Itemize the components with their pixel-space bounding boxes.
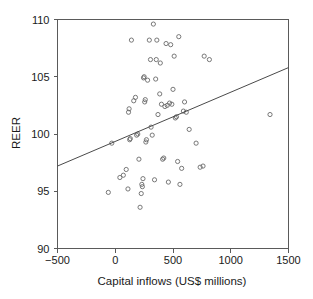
data-point [268,112,272,116]
y-tick-label: 110 [32,14,50,26]
y-axis-title: REER [10,117,22,149]
data-point [187,127,191,131]
data-point [164,41,168,45]
data-point [124,167,128,171]
data-point [155,38,159,42]
y-tick-label: 105 [31,71,49,83]
data-point [178,182,182,186]
y-tick-label: 100 [31,128,49,140]
data-point [138,205,142,209]
data-point [129,38,133,42]
data-point [194,141,198,145]
data-point [133,95,137,99]
y-tick-group: 9095100105110 [31,14,57,255]
data-point [158,61,162,65]
data-point [106,190,110,194]
x-tick-label: 500 [164,254,182,266]
x-axis-title: Capital inflows (US$ millions) [98,275,247,287]
scatter-plot-figure: 9095100105110 −500050010001500 Capital i… [0,0,313,299]
y-tick-label: 95 [37,185,49,197]
data-point [158,92,162,96]
data-point [150,133,154,137]
data-point [151,22,155,26]
data-point [161,157,165,161]
data-point [126,187,130,191]
data-point [182,100,186,104]
data-point [156,112,160,116]
x-tick-group: −500050010001500 [45,249,301,266]
data-point [180,166,184,170]
chart-canvas: 9095100105110 −500050010001500 Capital i… [0,0,313,299]
x-tick-label: 1500 [276,254,300,266]
data-point [171,87,175,91]
data-point [176,159,180,163]
data-point [202,54,206,58]
data-point [162,156,166,160]
data-point [139,191,143,195]
data-point [121,173,125,177]
data-point [177,35,181,39]
data-point [147,38,151,42]
data-point [145,78,149,82]
x-tick-label: 0 [112,254,118,266]
data-point [169,43,173,47]
x-tick-label: 1000 [219,254,243,266]
data-point [137,157,141,161]
data-points-group [106,22,272,209]
x-tick-label: −500 [45,254,70,266]
data-point [135,133,139,137]
data-point [154,57,158,61]
data-point [152,178,156,182]
data-point [148,57,152,61]
data-point [141,177,145,181]
data-point [166,180,170,184]
regression-line [58,68,289,166]
data-point [172,54,176,58]
data-point [207,57,211,61]
data-point [154,77,158,81]
